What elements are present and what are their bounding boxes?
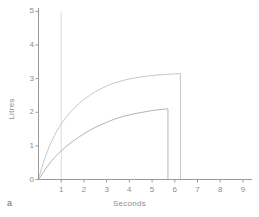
x-axis-title: Seconds — [113, 199, 146, 208]
x-tick-label-6: 6 — [173, 186, 177, 194]
series-line-2 — [39, 109, 168, 180]
x-tick-label-4: 4 — [127, 186, 131, 194]
x-tick-label-2: 2 — [82, 186, 86, 194]
x-tick-label-5: 5 — [150, 186, 154, 194]
y-tick-label-1: 1 — [20, 142, 34, 150]
figure-panel-a: Litres Seconds a 012345123456789 — [0, 0, 259, 217]
x-tick-label-3: 3 — [104, 186, 108, 194]
series-line-1 — [39, 74, 181, 180]
y-tick-label-2: 2 — [20, 108, 34, 116]
panel-label: a — [7, 198, 12, 208]
y-tick-label-5: 5 — [20, 7, 34, 15]
y-axis-title: Litres — [7, 98, 16, 119]
x-tick-label-8: 8 — [218, 186, 222, 194]
x-tick-label-7: 7 — [195, 186, 199, 194]
x-tick-label-1: 1 — [59, 186, 63, 194]
x-tick-label-9: 9 — [241, 186, 245, 194]
y-tick-label-4: 4 — [20, 41, 34, 49]
y-tick-label-0: 0 — [20, 176, 34, 184]
y-tick-label-3: 3 — [20, 75, 34, 83]
